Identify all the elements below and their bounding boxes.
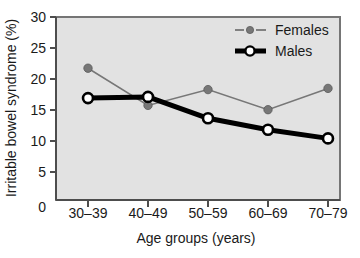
data-point-females-50-59 <box>204 85 212 93</box>
x-tick-label-60-69: 60–69 <box>249 205 288 221</box>
x-tick-label-50-59: 50–59 <box>189 205 228 221</box>
x-tick-label-70-79: 70–79 <box>309 205 348 221</box>
y-tick-label-20: 20 <box>30 71 46 87</box>
y-tick-label-15: 15 <box>30 102 46 118</box>
irritable-bowel-syndrome-line-chart: 30 25 20 15 10 5 0 30–39 40–49 50–59 60–… <box>0 0 360 258</box>
legend-marker-females-icon <box>246 26 253 33</box>
legend-label-males: Males <box>275 43 312 59</box>
data-point-males-50-59 <box>203 113 213 123</box>
y-axis-title: Irritable bowel syndrome (%) <box>3 19 19 197</box>
x-tick-label-30-39: 30–39 <box>69 205 108 221</box>
y-tick-label-25: 25 <box>30 40 46 56</box>
data-point-females-60-69 <box>264 106 272 114</box>
x-axis-tick-labels: 30–39 40–49 50–59 60–69 70–79 <box>69 205 348 221</box>
x-axis-title: Age groups (years) <box>136 230 255 246</box>
data-point-males-70-79 <box>323 133 333 143</box>
chart-figure: 30 25 20 15 10 5 0 30–39 40–49 50–59 60–… <box>0 0 360 258</box>
legend-marker-males-icon <box>245 46 254 55</box>
y-axis-tick-labels: 30 25 20 15 10 5 0 <box>30 9 46 215</box>
y-tick-label-30: 30 <box>30 9 46 25</box>
data-point-females-70-79 <box>324 84 332 92</box>
data-point-males-30-39 <box>83 93 93 103</box>
y-tick-label-5: 5 <box>38 164 46 180</box>
y-tick-label-0: 0 <box>38 199 46 215</box>
data-point-males-60-69 <box>263 125 273 135</box>
x-tick-label-40-49: 40–49 <box>129 205 168 221</box>
data-point-females-30-39 <box>84 64 92 72</box>
y-tick-label-10: 10 <box>30 133 46 149</box>
legend-label-females: Females <box>275 22 329 38</box>
data-point-males-40-49 <box>143 92 153 102</box>
